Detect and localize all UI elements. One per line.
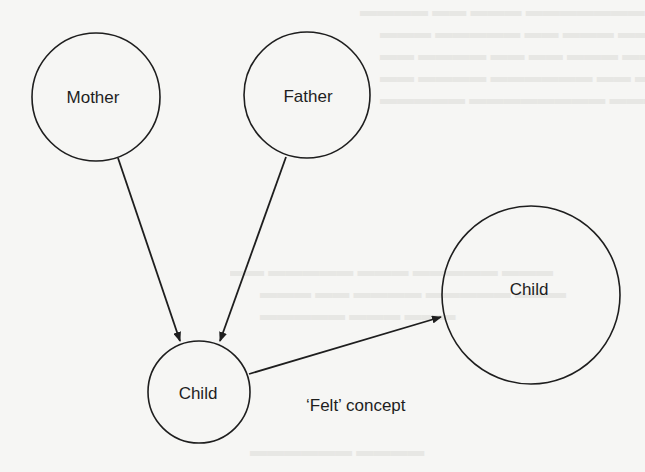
node-father-label: Father (283, 87, 332, 106)
node-child-small: Child (148, 341, 250, 443)
node-mother-label: Mother (67, 88, 120, 107)
family-concept-diagram: Mother Father Child Child ‘Felt’ concept (0, 0, 645, 472)
edge-mother-to-child-arrow (118, 158, 180, 341)
felt-concept-caption: ‘Felt’ concept (306, 396, 406, 415)
node-child-large: Child (442, 206, 620, 384)
diagram-page: ▬▬▬▬ ▬▬ ▬▬▬ ▬▬▬▬▬▬▬ ▬▬ ▬▬ ▬▬▬▬ ▬▬▬ ▬▬▬▬▬… (0, 0, 645, 472)
node-father: Father (244, 32, 370, 158)
node-child-small-label: Child (179, 384, 218, 403)
edge-child-to-felt-child-arrow (249, 317, 441, 374)
node-child-large-label: Child (510, 280, 549, 299)
edge-father-to-child-arrow (220, 157, 286, 341)
node-mother: Mother (32, 33, 160, 161)
